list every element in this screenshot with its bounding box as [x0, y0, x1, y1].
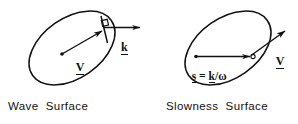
slowness-surface-caption: Slowness Surface: [166, 100, 268, 112]
wave-surface-v-label: V: [70, 45, 84, 75]
wave-surface-v-label-text: V: [76, 60, 85, 75]
wave-surface-k-label: k: [115, 25, 128, 55]
slowness-surface-s-equation: s = k/ω: [186, 58, 227, 82]
slowness-surface-ellipse: [171, 0, 284, 100]
panel-slowness-surface: [171, 0, 285, 100]
over-omega-symbol: /ω: [215, 70, 227, 82]
slowness-surface-v-label-text: V: [276, 54, 285, 69]
right-angle-marker-icon: [101, 19, 108, 26]
equals-symbol: =: [196, 70, 208, 82]
wave-surface-k-label-text: k: [121, 40, 128, 55]
wave-surface-caption: Wave Surface: [8, 100, 88, 112]
slowness-surface-v-label: V: [270, 39, 284, 69]
